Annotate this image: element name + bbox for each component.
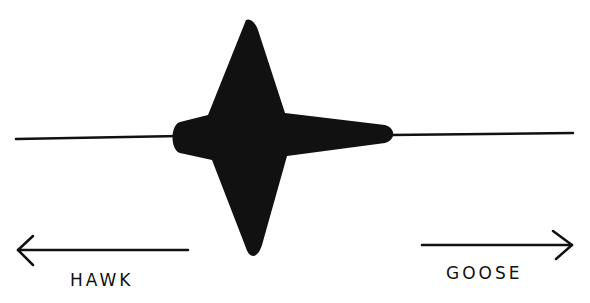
axis-line-right	[390, 133, 573, 135]
axis-line-left	[16, 136, 180, 139]
hawk-label: HAWK	[70, 270, 133, 290]
goose-label: GOOSE	[446, 263, 522, 283]
arrow-left-icon	[18, 236, 188, 265]
hawk-goose-figure	[0, 0, 590, 303]
bird-silhouette	[173, 19, 394, 255]
arrow-right-icon	[422, 231, 572, 259]
